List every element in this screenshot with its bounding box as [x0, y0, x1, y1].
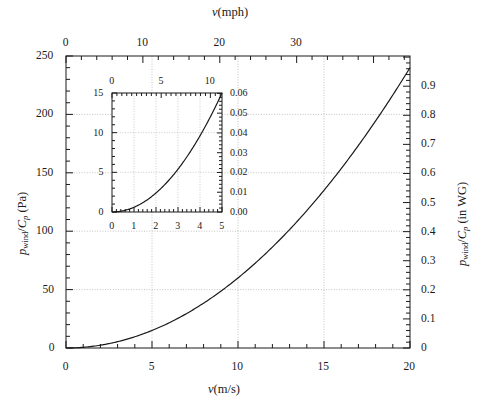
- left-tick-label: 0: [49, 342, 55, 354]
- right-tick-label: 0.9: [421, 80, 435, 92]
- inset-right-tick-label: 0.04: [230, 128, 248, 138]
- left-tick-label: 200: [36, 108, 53, 120]
- right-tick-label: 0.7: [421, 138, 435, 150]
- bottom-tick-label: 10: [232, 361, 244, 373]
- inset-top-tick-label: 0: [109, 76, 114, 86]
- top-tick-label: 30: [290, 37, 302, 49]
- top-tick-label: 20: [213, 37, 225, 49]
- inset-top-tick-label: 5: [158, 76, 163, 86]
- left-tick-label: 250: [36, 50, 53, 62]
- left-tick-label: 50: [42, 284, 54, 296]
- bottom-tick-label: 5: [149, 361, 155, 373]
- right-tick-label: 0: [421, 342, 427, 354]
- inset-bottom-tick-label: 3: [175, 221, 180, 231]
- inset-top-tick-label: 10: [205, 76, 215, 86]
- inset-left-tick-label: 5: [99, 167, 104, 177]
- left-tick-label: 100: [36, 225, 53, 237]
- inset-bottom-tick-label: 4: [197, 221, 202, 231]
- top-axis-title: v(mph): [212, 6, 248, 19]
- inset-right-tick-label: 0.00: [230, 207, 248, 217]
- inset-right-tick-label: 0.05: [230, 108, 248, 118]
- top-tick-label: 0: [63, 37, 69, 49]
- inset-gridlines: [112, 93, 222, 212]
- right-tick-label: 0.2: [421, 284, 435, 296]
- inset-bottom-tick-label: 5: [219, 221, 224, 231]
- right-tick-label: 0.3: [421, 255, 435, 267]
- bottom-tick-label: 0: [63, 361, 69, 373]
- inset-right-tick-label: 0.06: [230, 88, 248, 98]
- inset-bottom-tick-label: 1: [131, 221, 136, 231]
- inset-bottom-tick-label: 0: [109, 221, 114, 231]
- inset-bottom-tick-label: 2: [153, 221, 158, 231]
- right-tick-label: 0.6: [421, 167, 435, 179]
- chart-canvas: [0, 0, 477, 403]
- right-tick-label: 0.5: [421, 197, 435, 209]
- right-tick-label: 0.8: [421, 109, 435, 121]
- chart-figure: 05101520010203005010015020025000.10.20.3…: [0, 0, 477, 403]
- bottom-tick-label: 20: [404, 361, 416, 373]
- bottom-axis-title: v(m/s): [208, 383, 240, 396]
- bottom-tick-label: 15: [318, 361, 330, 373]
- right-tick-label: 0.4: [421, 226, 435, 238]
- left-axis-title: pwind/Cp (Pa): [16, 192, 29, 255]
- right-axis-title: pwind/Cp (in WG): [456, 182, 469, 266]
- inset-right-tick-label: 0.03: [230, 148, 248, 158]
- left-tick-label: 150: [36, 167, 53, 179]
- inset-right-tick-label: 0.01: [230, 187, 248, 197]
- inset-right-tick-label: 0.02: [230, 167, 248, 177]
- inset-left-tick-label: 0: [99, 207, 104, 217]
- inset-left-tick-label: 15: [93, 88, 103, 98]
- inset-left-tick-label: 10: [93, 128, 103, 138]
- right-tick-label: 0.1: [421, 313, 435, 325]
- top-tick-label: 10: [136, 37, 148, 49]
